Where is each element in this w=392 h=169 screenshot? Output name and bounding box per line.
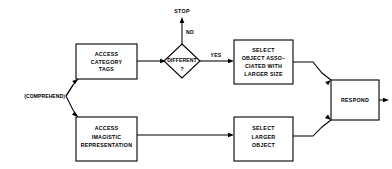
node-access-category-tags: ACCESS CATEGORY TAGS — [76, 44, 137, 79]
node-different-decision: DIFFERENT ? — [164, 44, 200, 78]
entry-point-label: (COMPREHEND) — [24, 93, 65, 99]
node-different-line-1: DIFFERENT — [167, 57, 197, 63]
arrowhead-select-object-to-respond — [325, 80, 331, 85]
connector-category-to-different — [137, 59, 166, 64]
terminal-stop-label: STOP — [174, 8, 190, 14]
node-different-line-2: ? — [180, 66, 183, 72]
node-access-category-tags-line-1: ACCESS — [95, 51, 119, 57]
node-select-object-line-3: CIATED WITH — [245, 63, 282, 69]
connector-different-to-stop — [180, 17, 185, 44]
flowchart-canvas: (COMPREHEND) STOP NO YES ACCESS CATEGORY… — [0, 0, 392, 169]
node-access-imagistic-line-1: ACCESS — [95, 125, 119, 131]
node-select-object-line-1: SELECT — [252, 47, 275, 53]
arrowhead-select-larger-to-respond — [325, 115, 331, 120]
arrowhead-respond-output — [383, 98, 389, 103]
node-select-larger-line-2: LARGER — [252, 134, 276, 140]
node-select-larger-object: SELECT LARGER OBJECT — [234, 117, 293, 161]
edge-label-yes: YES — [211, 52, 222, 58]
node-select-larger-line-3: OBJECT — [252, 142, 275, 148]
flowchart-diagram: (COMPREHEND) STOP NO YES ACCESS CATEGORY… — [0, 0, 392, 169]
connector-entry-branch — [66, 79, 78, 117]
node-respond: RESPOND — [331, 80, 379, 120]
node-select-larger-line-1: SELECT — [252, 125, 275, 131]
arrowhead-entry-to-category — [72, 79, 78, 84]
connector-select-object-to-respond — [293, 62, 331, 85]
node-access-category-tags-line-3: TAGS — [99, 66, 115, 72]
connector-select-larger-to-respond — [293, 115, 331, 136]
connector-imagistic-to-select-larger — [137, 133, 234, 138]
node-access-imagistic-line-3: REPRESENTATION — [81, 142, 133, 148]
node-access-imagistic-line-2: IMAGISTIC — [92, 134, 122, 140]
arrowhead-to-select-larger — [228, 133, 234, 138]
edge-label-no: NO — [186, 29, 194, 35]
node-select-object-associated: SELECT OBJECT ASSO– CIATED WITH LARGER S… — [234, 40, 293, 84]
arrowhead-to-stop — [180, 17, 185, 23]
node-access-category-tags-line-2: CATEGORY — [91, 59, 123, 65]
connector-respond-output — [379, 98, 389, 103]
arrowhead-to-select-object — [228, 59, 234, 64]
node-select-object-line-4: LARGER SIZE — [244, 71, 283, 77]
arrowhead-entry-to-imagistic — [72, 111, 78, 117]
node-respond-label: RESPOND — [341, 97, 369, 103]
node-access-imagistic-representation: ACCESS IMAGISTIC REPRESENTATION — [76, 117, 137, 161]
node-select-object-line-2: OBJECT ASSO– — [242, 55, 286, 61]
connector-different-to-select-object — [200, 59, 234, 64]
